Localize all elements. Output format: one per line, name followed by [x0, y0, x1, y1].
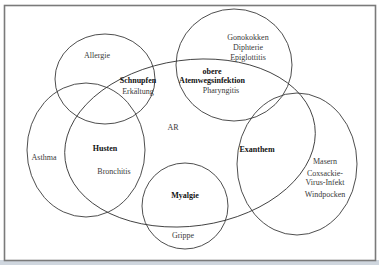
label-windpocken: Windpocken	[305, 190, 346, 199]
label-coxsackie-line1: Coxsackie-	[307, 169, 343, 178]
label-diphterie: Diphterie	[233, 43, 264, 52]
diagram-frame	[5, 6, 376, 261]
label-allergie: Allergie	[84, 51, 111, 60]
label-exanthem: Exanthem	[239, 145, 274, 154]
label-asthma: Asthma	[32, 153, 57, 162]
label-grippe: Grippe	[172, 231, 195, 240]
label-pharyngitis: Pharyngitis	[203, 86, 239, 95]
label-schnupfen: Schnupfen	[120, 76, 157, 85]
label-coxsackie-line2: Virus-Infekt	[305, 178, 345, 187]
label-masern: Masern	[313, 157, 337, 166]
label-epiglottitis: Epiglottitis	[230, 53, 266, 62]
label-atemwegsinfektion: Atemwegsinfektion	[179, 76, 245, 85]
label-husten: Husten	[93, 144, 118, 153]
label-gonokokken: Gonokokken	[227, 33, 268, 42]
label-myalgie: Myalgie	[171, 191, 199, 200]
label-obere: obere	[203, 67, 222, 76]
venn-diagram: Allergie Schnupfen Erkältung Gonokokken …	[0, 0, 379, 265]
label-erkaeltung: Erkältung	[122, 87, 154, 96]
label-ar: AR	[167, 123, 179, 132]
label-bronchitis: Bronchitis	[97, 167, 130, 176]
